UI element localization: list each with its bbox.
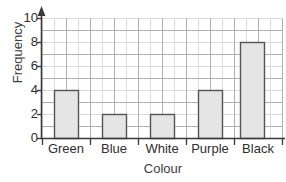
x-tick-label-white: White: [138, 141, 186, 156]
x-axis-title: Colour: [41, 161, 285, 176]
bar-purple: [199, 91, 223, 139]
bar-white: [151, 115, 175, 139]
x-tick-label-blue: Blue: [90, 141, 138, 156]
y-axis-arrow-icon: [38, 6, 46, 16]
bar-green: [55, 91, 79, 139]
bar-blue: [103, 115, 127, 139]
x-tick-label-purple: Purple: [186, 141, 234, 156]
x-tick-label-green: Green: [42, 141, 90, 156]
x-tick-label-black: Black: [234, 141, 282, 156]
bar-chart: Frequency 10 8 6 4 2 0: [0, 0, 286, 182]
bar-black: [241, 43, 265, 139]
y-axis: [37, 6, 45, 139]
